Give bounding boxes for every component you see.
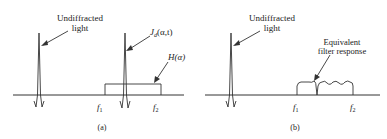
equivalent-filter-label-line2: filter response [318,46,367,56]
arrow-filter-response [314,55,330,81]
arrow-h-alpha [154,62,168,83]
f1-label-b: f1 [293,102,299,113]
undiffracted-label-a-line2: light [72,23,89,33]
f2-label-b: f2 [350,102,356,113]
undiffracted-peak-a [34,33,44,107]
diagram-figure: Undiffracted light Jd(α,t) H(α) f1 f2 (a… [0,0,387,139]
caption-a: (a) [98,123,107,132]
arrow-jd [126,36,150,51]
filter-rectangle-h [105,84,161,95]
jd-label: Jd(α,t) [150,27,172,38]
arrow-undiffracted-a [41,31,68,46]
signal-peak-jd [120,33,130,108]
undiffracted-label-b-line2: light [264,23,281,33]
caption-b: (b) [290,123,300,132]
panel-a: Undiffracted light Jd(α,t) H(α) f1 f2 (a… [13,13,185,132]
panel-b: Undiffracted light Equivalent filter res… [205,13,380,132]
h-alpha-label: H(α) [167,52,185,62]
undiffracted-label-b-line1: Undiffracted [249,13,295,23]
undiffracted-peak-b [226,33,236,107]
f1-label-a: f1 [97,102,103,113]
arrow-undiffracted-b [233,31,260,46]
equivalent-filter-response-curve [297,81,353,95]
f2-label-a: f2 [153,102,159,113]
undiffracted-label-a-line1: Undiffracted [57,13,103,23]
